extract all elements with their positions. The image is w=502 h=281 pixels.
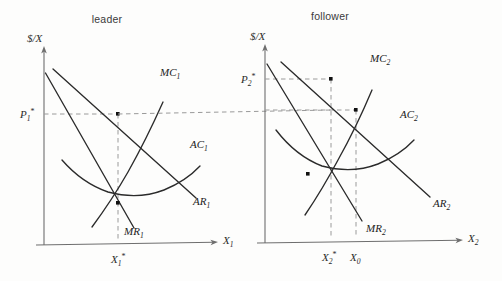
- curve-label-ac1: AC1: [189, 138, 208, 153]
- marker-mr-mc-follower: [306, 172, 310, 176]
- quantity-label-x2: X2*: [321, 250, 337, 267]
- curve-mc2: [305, 90, 372, 215]
- marker-price-point-p2: [329, 77, 333, 81]
- curve-label-ar2: AR2: [432, 197, 450, 212]
- panel-title-leader: leader: [92, 13, 123, 25]
- marker-price-point-p1-follower: [354, 108, 358, 112]
- price-label-p1: P1*: [19, 107, 35, 124]
- x-axis-label-follower: X2: [467, 232, 479, 247]
- curve-mr1: [46, 73, 135, 228]
- curve-label-ar1: AR1: [192, 195, 210, 210]
- curve-label-mr2: MR2: [365, 222, 386, 237]
- price-label-p2: P2*: [240, 72, 256, 89]
- curve-label-mc1: MC1: [159, 66, 180, 81]
- x-axis-leader: [36, 242, 214, 245]
- curve-label-ac2: AC2: [399, 108, 418, 123]
- marker-mr-mc-leader: [116, 201, 120, 205]
- cross-panel-price-line: [118, 110, 332, 114]
- y-axis-label-follower: $/X: [250, 30, 267, 42]
- curve-label-mr1: MR1: [123, 225, 144, 240]
- panel-title-follower: follower: [311, 10, 349, 22]
- x-axis-follower: [257, 240, 459, 243]
- y-axis-label-leader: $/X: [27, 32, 44, 44]
- panel-leader: leader $/X X1 MC1 AC1 AR1 MR1 P1* X1*: [19, 13, 234, 268]
- curve-label-mc2: MC2: [369, 52, 391, 67]
- panel-follower: follower $/X X2 MC2 AC2 AR2 MR2 P2* X2*: [240, 10, 479, 266]
- price-leadership-figure: leader $/X X1 MC1 AC1 AR1 MR1 P1* X1*: [0, 0, 502, 281]
- x-axis-label-leader: X1: [222, 234, 234, 249]
- quantity-label-x0: X0: [349, 251, 361, 266]
- curve-mc1: [92, 102, 163, 227]
- quantity-label-x1: X1*: [110, 252, 126, 269]
- figure-canvas: leader $/X X1 MC1 AC1 AR1 MR1 P1* X1*: [0, 0, 502, 281]
